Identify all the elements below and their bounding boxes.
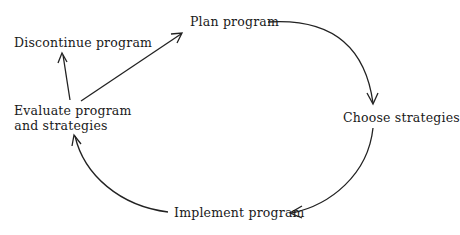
arrowhead-discontinue-icon (58, 53, 67, 63)
arrow-implement-to-evaluate (75, 136, 168, 212)
arrow-plan-to-choose (268, 22, 373, 103)
node-choose-strategies: Choose strategies (343, 110, 460, 125)
evaluate-line-2: and strategies (14, 118, 108, 133)
evaluate-line-1: Evaluate program (14, 103, 108, 118)
arrow-choose-to-implement (292, 128, 373, 213)
node-plan-program: Plan program (190, 14, 279, 29)
node-implement-program: Implement program (174, 205, 305, 220)
node-evaluate-program: Evaluate program and strategies (14, 103, 108, 133)
node-discontinue-program: Discontinue program (14, 35, 152, 50)
